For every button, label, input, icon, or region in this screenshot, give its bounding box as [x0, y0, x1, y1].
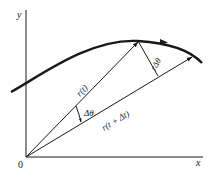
- y-axis-label: y: [16, 9, 22, 20]
- axes: [26, 10, 203, 157]
- trajectory-curve: [11, 41, 202, 92]
- arc-length-label: rΔθ: [148, 56, 163, 72]
- delta-theta-label: Δθ: [83, 108, 94, 118]
- vector-r-t-plus-dt-label: r(t + Δt): [100, 109, 131, 133]
- vector-r-t-label: r(t): [74, 83, 90, 99]
- delta-theta-arc: [76, 106, 81, 122]
- x-axis-label: x: [195, 157, 201, 168]
- velocity-vector-diagram: y x 0 r(t) r(t + Δt) Δθ rΔθ: [0, 0, 213, 177]
- origin-label: 0: [18, 159, 23, 170]
